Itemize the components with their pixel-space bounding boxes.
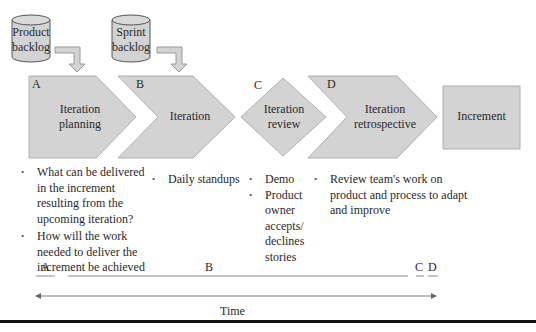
stage-b-label: Iteration [155, 109, 225, 124]
bullet-icon: • [21, 165, 24, 181]
bullet-text: Product owner accepts/ declines stories [265, 188, 304, 264]
bullet-item: •What can be delivered in the increment … [37, 165, 155, 227]
bullet-icon: • [314, 172, 317, 188]
bullet-item: •How will the work needed to deliver the… [37, 229, 155, 276]
bottom-rule [0, 320, 536, 323]
stage-d-label: Iteration retrospective [340, 102, 430, 132]
bullet-item: •Review team's work on product and proce… [330, 172, 470, 219]
sprint-backlog-line1: Sprint [109, 25, 153, 40]
stage-a-letter: A [32, 77, 41, 92]
stage-d-label-line1: Iteration [340, 102, 430, 117]
product-backlog-line2: backlog [9, 40, 53, 55]
timeline-label-d: D [428, 260, 437, 275]
retrospective-bullets: •Review team's work on product and proce… [330, 172, 470, 221]
bullet-item: •Daily standups [168, 172, 248, 188]
product-backlog-arrow-icon [55, 47, 85, 72]
bullet-text: What can be delivered in the increment r… [37, 165, 145, 226]
bullet-text: Review team's work on product and proces… [330, 172, 467, 217]
timeline-label-b: B [205, 260, 213, 275]
timeline-label-a: A [41, 260, 50, 275]
sprint-backlog-label: Sprint backlog [109, 25, 153, 55]
increment-label: Increment [443, 109, 520, 124]
stage-a-label-line1: Iteration [40, 102, 120, 117]
bullet-icon: • [21, 229, 24, 245]
stage-d-letter: D [327, 77, 336, 92]
stage-d-label-line2: retrospective [340, 117, 430, 132]
product-backlog-line1: Product [9, 25, 53, 40]
stage-a-label: Iteration planning [40, 102, 120, 132]
bullet-item: •Demo [265, 172, 315, 188]
bullet-icon: • [249, 172, 252, 188]
sprint-backlog-line2: backlog [109, 40, 153, 55]
stage-c-label-line2: review [248, 117, 320, 132]
bullet-text: Demo [265, 172, 294, 186]
bullet-item: •Product owner accepts/ declines stories [265, 188, 315, 266]
sprint-backlog-arrow-icon [157, 47, 187, 72]
time-axis-label: Time [220, 304, 245, 319]
bullet-text: Daily standups [168, 172, 240, 186]
bullet-icon: • [249, 188, 252, 204]
stage-c-label-line1: Iteration [248, 102, 320, 117]
planning-bullets: •What can be delivered in the increment … [37, 165, 155, 278]
bullet-text: How will the work needed to deliver the … [37, 229, 145, 274]
increment-label-line1: Increment [443, 109, 520, 124]
stage-c-label: Iteration review [248, 102, 320, 132]
review-bullets: •Demo •Product owner accepts/ declines s… [265, 172, 315, 267]
product-backlog-label: Product backlog [9, 25, 53, 55]
bullet-icon: • [152, 172, 155, 188]
stage-a-label-line2: planning [40, 117, 120, 132]
timeline-label-c: C [415, 260, 423, 275]
stage-c-letter: C [254, 78, 262, 93]
iteration-bullets: •Daily standups [168, 172, 248, 190]
stage-b-label-line1: Iteration [155, 109, 225, 124]
stage-b-letter: B [136, 77, 144, 92]
